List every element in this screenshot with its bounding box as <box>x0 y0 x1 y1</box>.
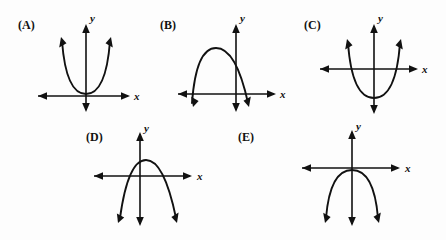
panel-b-x-axis-left-arrow <box>178 90 187 98</box>
panel-a-y-axis-label: y <box>88 12 95 24</box>
panel-e: (E) x y <box>236 126 386 238</box>
panel-d-x-axis-label: x <box>196 170 203 182</box>
panel-e-x-axis-left-arrow <box>302 164 311 172</box>
panel-b-x-axis-label: x <box>279 88 286 100</box>
panel-c-label: (C) <box>304 18 321 33</box>
panel-d: (D) x y <box>84 126 234 238</box>
panel-a-x-axis-left-arrow <box>38 92 47 100</box>
panel-c-y-axis-down-arrow <box>370 105 378 114</box>
panel-d-y-axis-down-arrow <box>136 217 144 226</box>
panel-c-x-axis-label: x <box>421 63 428 75</box>
panel-e-y-axis-label: y <box>354 120 361 132</box>
panel-a-y-axis-up-arrow <box>82 24 90 33</box>
panel-c: (C) x y <box>298 6 442 118</box>
panel-b-y-axis-down-arrow <box>232 103 240 112</box>
panel-a-label: (A) <box>18 18 35 33</box>
panel-d-graph: x y <box>84 126 234 238</box>
panel-e-x-axis-right-arrow <box>391 164 400 172</box>
panel-b-y-axis-label: y <box>238 12 245 24</box>
panel-b-x-axis-right-arrow <box>267 90 276 98</box>
panel-e-x-axis-label: x <box>404 162 411 174</box>
panel-c-x-axis-right-arrow <box>409 65 418 73</box>
panel-d-y-axis-label: y <box>142 122 149 134</box>
panel-c-y-axis-up-arrow <box>370 24 378 33</box>
panel-e-graph: x y <box>236 126 386 238</box>
panel-e-y-axis-down-arrow <box>348 217 356 226</box>
panel-b: (B) x y <box>152 6 292 118</box>
panel-a: (A) x y <box>6 6 146 118</box>
panel-e-y-axis-up-arrow <box>348 130 356 139</box>
panel-b-y-axis-up-arrow <box>232 24 240 33</box>
panel-b-label: (B) <box>160 18 176 33</box>
panel-b-parabola-left-arrow <box>191 97 198 107</box>
panel-d-x-axis-right-arrow <box>183 172 192 180</box>
panel-d-label: (D) <box>86 130 103 145</box>
panel-a-x-axis-label: x <box>133 90 140 102</box>
panel-e-label: (E) <box>238 130 254 145</box>
panel-c-y-axis-label: y <box>376 12 383 24</box>
panel-a-x-axis-right-arrow <box>121 92 130 100</box>
panel-c-x-axis-left-arrow <box>320 65 329 73</box>
parabola-figure-sheet: (A) x y (B) <box>0 0 446 240</box>
panel-d-parabola <box>120 160 176 218</box>
panel-d-y-axis-up-arrow <box>136 132 144 141</box>
panel-a-y-axis-down-arrow <box>82 103 90 112</box>
panel-d-x-axis-left-arrow <box>94 172 103 180</box>
